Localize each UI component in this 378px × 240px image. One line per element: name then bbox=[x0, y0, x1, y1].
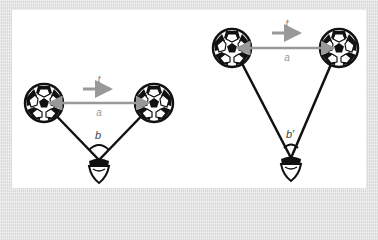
angle-label: b bbox=[95, 129, 101, 141]
right-scene: t a b′ bbox=[213, 17, 358, 181]
left-scene: t a b bbox=[25, 73, 173, 183]
eye-icon bbox=[89, 159, 109, 184]
distance-label: a bbox=[96, 107, 102, 118]
angle-label: b′ bbox=[286, 128, 295, 140]
angle-arc-b bbox=[89, 145, 109, 150]
eye-icon bbox=[281, 157, 301, 182]
motion-label: t bbox=[97, 73, 101, 85]
diagram-canvas: t a b t a b′ bbox=[0, 0, 378, 202]
motion-label: t bbox=[285, 17, 289, 29]
distance-label: a bbox=[284, 52, 290, 63]
